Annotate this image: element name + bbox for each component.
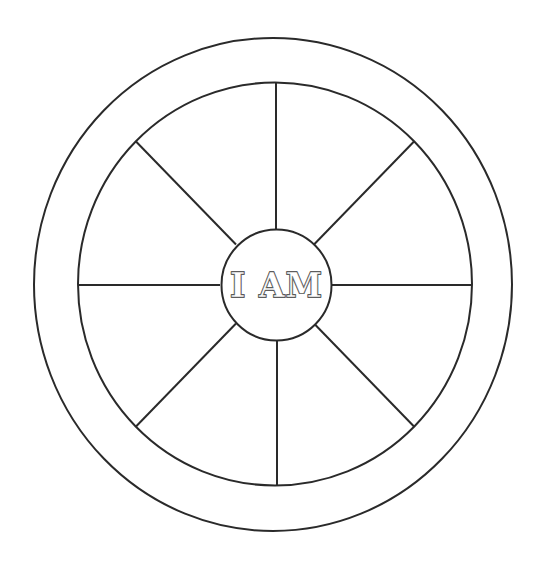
spoke-upper-right: [314, 142, 414, 245]
spoke-upper-left: [136, 142, 236, 245]
hub-label-engraving: I AM: [230, 266, 323, 305]
spoke-lower-left: [136, 324, 236, 427]
wheel-diagram: I AM I AM: [0, 0, 545, 564]
spoke-lower-right: [314, 324, 414, 427]
